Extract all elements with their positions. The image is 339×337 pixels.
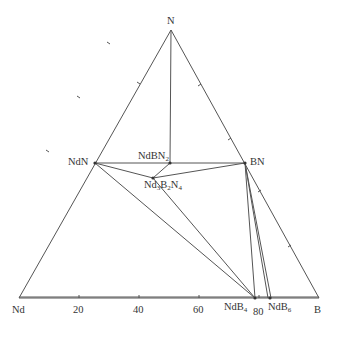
point-BN [243, 161, 246, 164]
tick [198, 84, 201, 86]
phase-label-NdBN2-sub: 2 [165, 155, 169, 163]
tick [107, 42, 110, 44]
phase-label-NdB6-main: NdB [268, 301, 288, 312]
phase-label-BN: BN [250, 157, 265, 168]
vertex-label-Nd: Nd [12, 305, 25, 316]
tick-label-80: 80 [253, 307, 264, 318]
vertex-label-N: N [167, 16, 175, 27]
phase-label-NdB6: NdB6 [268, 302, 291, 314]
phase-label-NdBN2-main: NdBN [138, 150, 165, 161]
tick [77, 96, 80, 98]
point-NdB4 [253, 296, 256, 299]
phase-label-NdBN2: NdBN2 [138, 151, 169, 163]
tie-line-Nd3B2N4-NdB4 [153, 178, 255, 298]
tick-label-20: 20 [73, 305, 84, 316]
tick-label-40: 40 [133, 305, 144, 316]
tick [228, 138, 231, 140]
tie-line-BN-NdB6-b [245, 163, 271, 298]
point-NdN [93, 161, 96, 164]
point-NdB6 [268, 296, 271, 299]
phase-label-NdB4-main: NdB [224, 301, 244, 312]
label-sub: 4 [178, 184, 182, 192]
phase-label-NdB6-sub: 6 [288, 306, 292, 314]
phase-label-Nd3B2N4: Nd3B2N4 [144, 180, 182, 192]
ternary-diagram [0, 0, 339, 337]
phase-label-NdN: NdN [68, 157, 88, 168]
tick [46, 150, 49, 152]
phase-label-NdB4-sub: 4 [244, 306, 248, 314]
label-part: Nd [144, 179, 157, 190]
tick-label-60: 60 [193, 305, 204, 316]
vertex-label-B: B [314, 305, 321, 316]
tick [137, 82, 140, 84]
phase-label-NdB4: NdB4 [224, 302, 247, 314]
tie-line-BN-NdB4 [245, 163, 255, 298]
tie-line-N-NdBN2 [170, 30, 171, 163]
